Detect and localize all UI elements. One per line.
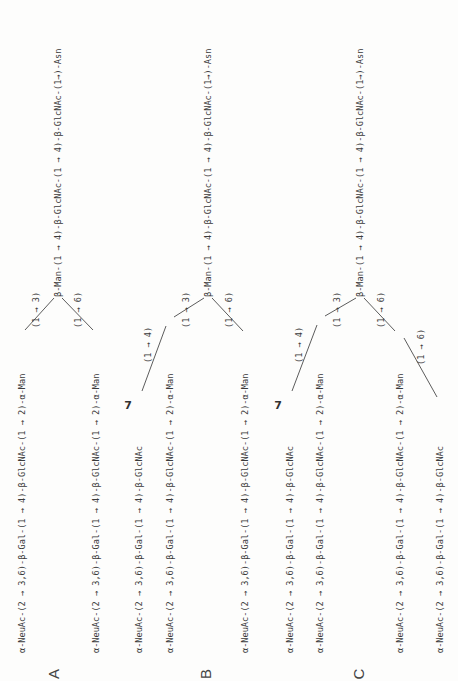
panel-b-linkage-1-3: (1 → 3) xyxy=(181,292,191,328)
panel-label-c: C xyxy=(350,669,367,680)
panel-b-linkage-1-6: (1 → 6) xyxy=(224,292,234,328)
panel-b-arm-2: α-NeuAc-(2 → 3,6)-β-Gal-(1 → 4)-β-GlcNAc… xyxy=(165,374,175,653)
panel-a-arm-2: α-NeuAc-(2 → 3,6)-β-Gal-(1 → 4)-β-GlcNAc… xyxy=(91,374,101,653)
panel-c-arm-3: α-NeuAc-(2 → 3,6)-β-Gal-(1 → 4)-β-GlcNAc… xyxy=(395,374,405,653)
panel-b-linkage-1-4: (1 → 4) xyxy=(143,327,153,363)
panel-a-linkage-1-6: (1 → 6) xyxy=(73,292,83,328)
panel-a-linkage-1-3: (1 → 3) xyxy=(31,292,41,328)
panel-b-arm-1: α-NeuAc-(2 → 3,6)-β-Gal-(1 → 4)-β-GlcNAc xyxy=(134,446,144,653)
panel-c-linkage-1-6b: (1 → 6) xyxy=(416,329,426,365)
rotated-canvas: A α-NeuAc-(2 → 3,6)-β-Gal-(1 → 4)-β-GlcN… xyxy=(0,0,458,681)
panel-c-arm-4: α-NeuAc-(2 → 3,6)-β-Gal-(1 → 4)-β-GlcNAc xyxy=(435,446,445,653)
panel-label-a: A xyxy=(45,669,62,679)
panel-a-arm-1: α-NeuAc-(2 → 3,6)-β-Gal-(1 → 4)-β-GlcNAc… xyxy=(17,374,27,653)
panel-c-linkage-1-6: (1 → 6) xyxy=(376,292,386,328)
panel-label-b: B xyxy=(197,669,214,679)
branch-connectors xyxy=(0,0,458,681)
panel-c-linkage-1-3: (1 → 3) xyxy=(332,292,342,328)
glycan-structure-figure: A α-NeuAc-(2 → 3,6)-β-Gal-(1 → 4)-β-GlcN… xyxy=(0,0,458,681)
panel-c-linkage-1-4: (1 → 4) xyxy=(294,327,304,363)
panel-a-trunk: β-Man-(1 → 4)-β-GlcNAc-(1 → 4)-β-GlcNAc-… xyxy=(53,49,63,297)
panel-b-trunk: β-Man-(1 → 4)-β-GlcNAc-(1 → 4)-β-GlcNAc-… xyxy=(203,49,213,297)
panel-b-marker: 7 xyxy=(124,399,132,412)
panel-c-arm-2: α-NeuAc-(2 → 3,6)-β-Gal-(1 → 4)-β-GlcNAc… xyxy=(315,374,325,653)
panel-b-arm-3: α-NeuAc-(2 → 3,6)-β-Gal-(1 → 4)-β-GlcNAc… xyxy=(240,374,250,653)
panel-c-arm-1: α-NeuAc-(2 → 3,6)-β-Gal-(1 → 4)-β-GlcNAc xyxy=(285,446,295,653)
panel-c-marker: 7 xyxy=(274,399,282,412)
panel-c-trunk: β-Man-(1 → 4)-β-GlcNAc-(1 → 4)-β-GlcNAc-… xyxy=(355,49,365,297)
